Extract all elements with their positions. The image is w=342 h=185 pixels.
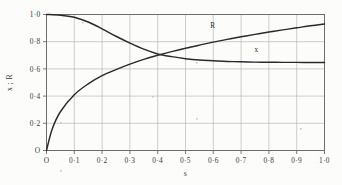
paper-speck xyxy=(152,96,154,98)
chart-figure: xRO0·10·20·30·40·50·60·70·80·91·0O0·20·4… xyxy=(0,0,342,185)
paper-speck xyxy=(60,122,62,124)
y-tick-label: 0·6 xyxy=(30,65,41,74)
y-tick-label: O xyxy=(35,146,41,155)
x-tick-label: 0·8 xyxy=(264,156,275,165)
y-tick-label: 0·8 xyxy=(30,37,41,46)
paper-speck xyxy=(196,62,198,64)
x-tick-label: O xyxy=(44,156,50,165)
y-tick-label: 0·4 xyxy=(30,92,41,101)
x-tick-label: 1·0 xyxy=(319,156,330,165)
line-chart: xRO0·10·20·30·40·50·60·70·80·91·0O0·20·4… xyxy=(0,0,342,185)
y-tick-label: 0·2 xyxy=(30,119,41,128)
x-tick-label: 0·9 xyxy=(291,156,302,165)
curve-label-x: x xyxy=(255,46,259,54)
paper-speck xyxy=(82,22,84,24)
x-tick-label: 0·6 xyxy=(208,156,219,165)
y-tick-label: 1·0 xyxy=(30,10,41,19)
x-tick-label: 0·1 xyxy=(69,156,80,165)
x-tick-label: 0·2 xyxy=(97,156,108,165)
x-tick-label: 0·3 xyxy=(125,156,136,165)
x-tick-label: 0·4 xyxy=(152,156,163,165)
x-axis-title: s xyxy=(184,169,187,178)
x-tick-label: 0·7 xyxy=(236,156,247,165)
paper-speck xyxy=(60,170,62,172)
paper-speck xyxy=(300,128,302,130)
curve-label-R: R xyxy=(210,22,215,30)
x-tick-label: 0·5 xyxy=(180,156,191,165)
paper-speck xyxy=(196,118,198,120)
y-axis-title: x ; R xyxy=(5,74,14,91)
